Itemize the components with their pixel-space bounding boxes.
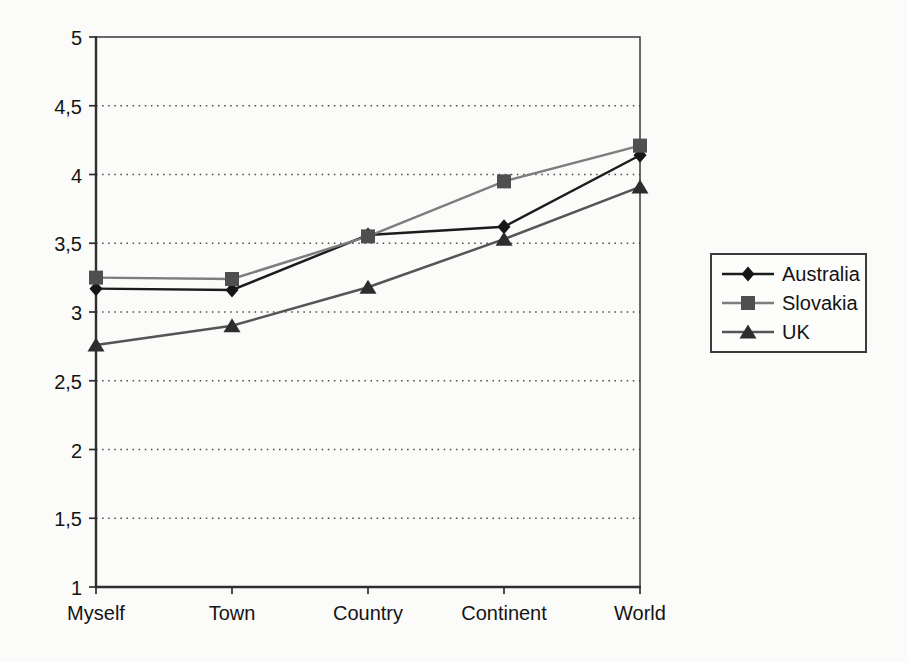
x-category-label: Country	[333, 602, 403, 624]
legend-label-uk: UK	[782, 322, 810, 342]
series-line-slovakia	[96, 146, 640, 279]
data-point-marker	[89, 271, 103, 285]
y-tick-label: 4	[71, 165, 82, 187]
y-tick-label: 2	[71, 440, 82, 462]
y-tick-label: 4,5	[54, 96, 82, 118]
square-marker-icon	[720, 293, 776, 313]
x-category-label: World	[614, 602, 666, 624]
scanned-line-chart-page: 11,522,533,544,55MyselfTownCountryContin…	[0, 0, 907, 662]
diamond-marker-icon	[720, 264, 776, 284]
data-point-marker	[360, 280, 377, 294]
triangle-marker-icon	[720, 322, 776, 342]
legend-label-australia: Australia	[782, 264, 860, 284]
y-tick-label: 2,5	[54, 371, 82, 393]
legend-key-marker	[741, 296, 755, 310]
data-point-marker	[497, 174, 511, 188]
legend-item-uk: UK	[720, 318, 861, 346]
data-point-marker	[496, 232, 513, 246]
y-tick-label: 3	[71, 302, 82, 324]
series-slovakia	[89, 139, 647, 286]
y-tick-label: 3,5	[54, 233, 82, 255]
legend-item-slovakia: Slovakia	[720, 289, 861, 317]
series-line-uk	[96, 187, 640, 345]
series-australia	[90, 148, 647, 298]
x-category-label: Continent	[461, 602, 547, 624]
y-tick-label: 5	[71, 27, 82, 49]
data-point-marker	[225, 272, 239, 286]
plot-border	[96, 37, 640, 587]
series-uk	[88, 179, 649, 351]
data-point-marker	[632, 179, 649, 193]
data-point-marker	[361, 229, 375, 243]
y-tick-label: 1,5	[54, 508, 82, 530]
y-tick-label: 1	[71, 577, 82, 599]
x-category-label: Town	[209, 602, 256, 624]
data-point-marker	[633, 139, 647, 153]
legend-item-australia: Australia	[720, 260, 861, 288]
chart-legend: Australia Slovakia UK	[710, 253, 867, 353]
series-line-australia	[96, 155, 640, 290]
legend-label-slovakia: Slovakia	[782, 293, 858, 313]
legend-key-marker	[742, 266, 755, 281]
x-category-label: Myself	[67, 602, 125, 624]
